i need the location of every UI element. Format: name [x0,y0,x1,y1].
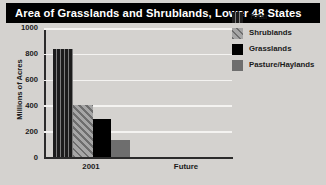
bar-pasture-haylands-2001 [111,140,130,157]
y-axis-ticks: 1000 800 600 400 200 0 [4,23,38,185]
plot-area [44,28,232,157]
gridline-1000 [44,28,232,30]
y-tick-200: 200 [4,128,38,136]
legend-label-pasture-haylands: Pasture/Haylands [249,61,314,69]
x-tick-2001: 2001 [82,162,99,171]
legend-item-total: Total [232,9,326,25]
legend-item-grasslands: Grasslands [232,41,326,57]
y-tick-800: 800 [4,50,38,58]
legend-item-shrublands: Shrublands [232,25,326,41]
bar-shrublands-2001 [73,105,93,157]
legend-swatch-shrublands-icon [232,28,243,39]
y-tick-0: 0 [4,154,38,162]
legend-swatch-grasslands-icon [232,44,243,55]
bar-grasslands-2001 [93,119,111,157]
legend-label-grasslands: Grasslands [249,45,291,53]
chart-legend: Total Shrublands Grasslands Pasture/Hayl… [232,9,326,73]
y-tick-600: 600 [4,76,38,84]
legend-label-total: Total [249,13,267,21]
x-axis-ticks: 2001 Future [44,162,233,176]
bar-total-2001 [53,49,73,157]
chart-figure: Area of Grasslands and Shrublands, Lower… [0,0,326,185]
legend-item-pasture-haylands: Pasture/Haylands [232,57,326,73]
y-tick-400: 400 [4,102,38,110]
legend-swatch-pasture-haylands-icon [232,60,243,71]
x-axis-line [44,157,233,159]
legend-swatch-total-icon [232,12,243,23]
x-tick-future: Future [174,162,198,171]
legend-label-shrublands: Shrublands [249,29,292,37]
y-tick-1000: 1000 [4,24,38,32]
